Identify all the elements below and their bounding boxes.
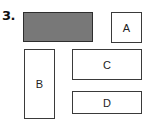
option-d-box[interactable]: D xyxy=(72,91,142,114)
problem-number: 3. xyxy=(2,8,15,23)
option-b-label: B xyxy=(36,78,43,90)
option-c-box[interactable]: C xyxy=(72,49,142,80)
option-b-box[interactable]: B xyxy=(24,49,55,119)
option-d-label: D xyxy=(103,97,111,109)
option-a-label: A xyxy=(123,22,130,34)
option-a-box[interactable]: A xyxy=(111,12,142,43)
option-c-label: C xyxy=(103,59,111,71)
shaded-rectangle xyxy=(23,12,93,42)
